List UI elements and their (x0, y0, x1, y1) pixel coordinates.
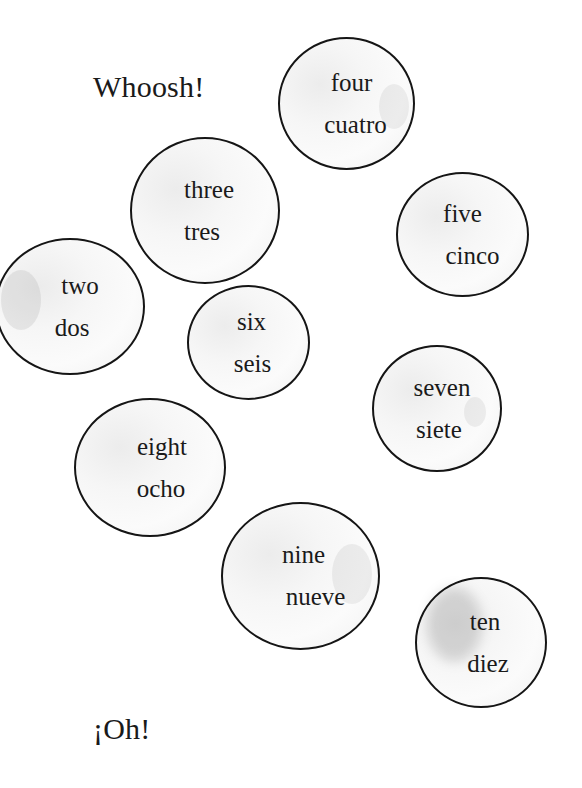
word-spanish: diez (467, 643, 509, 685)
word-spanish: nueve (286, 576, 346, 618)
word-english: nine (282, 534, 325, 576)
caption-oh: ¡Oh! (93, 712, 150, 746)
word-english: two (61, 265, 99, 307)
word-spanish: cuatro (324, 104, 386, 146)
bubble-five: five cinco (396, 172, 529, 297)
word-spanish: tres (184, 211, 220, 253)
word-english: four (331, 62, 373, 104)
word-english: six (237, 301, 266, 343)
word-spanish: ocho (137, 468, 186, 510)
bubble-eight: eight ocho (74, 398, 226, 537)
word-english: five (443, 193, 482, 235)
bubble-four: four cuatro (278, 37, 415, 170)
word-english: eight (137, 426, 187, 468)
caption-whoosh: Whoosh! (93, 70, 204, 104)
word-english: seven (414, 367, 471, 409)
word-spanish: seis (234, 343, 272, 385)
bubble-three: three tres (130, 137, 280, 284)
word-english: three (184, 169, 234, 211)
word-spanish: siete (416, 409, 462, 451)
bubble-two: two dos (0, 238, 145, 375)
bubble-six: six seis (187, 285, 310, 400)
bubble-seven: seven siete (372, 345, 502, 472)
word-english: ten (470, 601, 501, 643)
word-spanish: dos (55, 307, 90, 349)
bubble-nine: nine nueve (221, 502, 380, 650)
word-spanish: cinco (445, 235, 499, 277)
bubble-ten: ten diez (415, 577, 547, 708)
